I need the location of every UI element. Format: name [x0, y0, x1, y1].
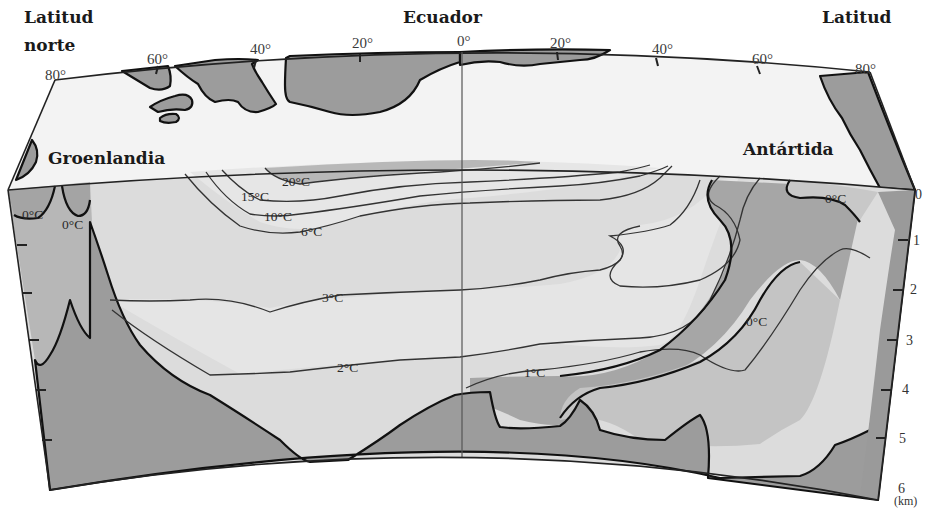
isotherm-label-15c: 15°C [241, 189, 269, 204]
isotherm-label-0c-greenland-right: 0°C [62, 217, 83, 232]
lat-tick-equator: 0° [457, 33, 471, 49]
ocean-temperature-cross-section: Latitud norte Ecuador Latitud Groenlandi… [0, 0, 927, 522]
isotherm-label-10c: 10°C [264, 209, 292, 224]
header-latitude-south: Latitud [822, 7, 891, 27]
depth-tick-3: 3 [906, 333, 913, 348]
depth-unit: (km) [894, 494, 917, 508]
lat-tick-40n: 40° [250, 41, 271, 57]
isotherm-label-0c-greenland-left: 0°C [22, 207, 43, 222]
isotherm-label-2c: 2°C [337, 360, 358, 375]
header-equator: Ecuador [403, 7, 483, 27]
isotherm-label-0c-bottom: 0°C [746, 314, 767, 329]
isotherm-label-0c-antarctica: 0°C [825, 191, 846, 206]
isotherm-label-6c: 6°C [301, 224, 322, 239]
lat-tick-20n: 20° [352, 35, 373, 51]
lat-tick-80n: 80° [45, 67, 66, 83]
label-greenland: Groenlandia [48, 148, 165, 168]
lat-tick-40s: 40° [652, 41, 673, 57]
isotherm-label-20c: 20°C [282, 174, 310, 189]
depth-tick-1: 1 [913, 233, 920, 248]
depth-tick-2: 2 [910, 282, 917, 297]
depth-tick-0: 0 [915, 187, 922, 202]
isotherm-label-3c: 3°C [322, 290, 343, 305]
landmass-island-small [160, 114, 179, 123]
lat-tick-60s: 60° [752, 51, 773, 67]
label-antarctica: Antártida [742, 139, 834, 159]
depth-tick-5: 5 [899, 431, 906, 446]
header-latitude-north-line1: Latitud [24, 7, 93, 27]
depth-tick-4: 4 [902, 382, 909, 397]
isotherm-label-1c: 1°C [524, 365, 545, 380]
lat-tick-20s: 20° [550, 35, 571, 51]
lat-tick-60n: 60° [147, 51, 168, 67]
header-latitude-north-line2: norte [24, 35, 76, 55]
lat-tick-80s: 80° [855, 61, 876, 77]
